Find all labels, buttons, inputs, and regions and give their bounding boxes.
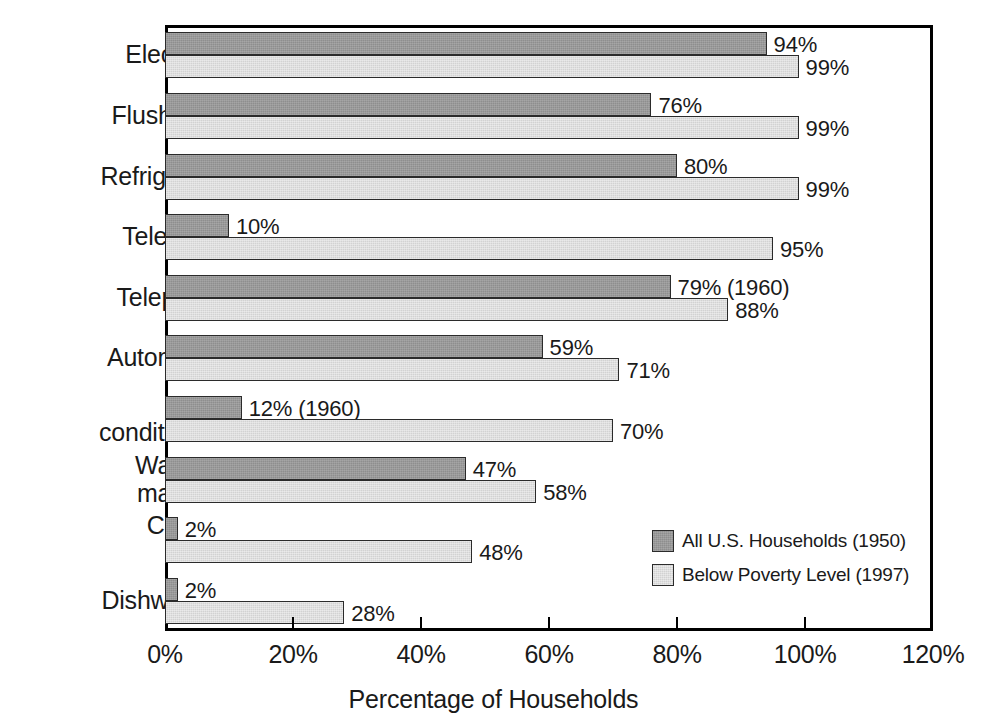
bar-1-0 (165, 55, 799, 78)
bar-value-label-1-1: 99% (806, 117, 849, 140)
bar-value-label-1-7: 58% (543, 481, 586, 504)
bar-value-label-0-4: 79% (1960) (678, 276, 790, 299)
legend-label-1: Below Poverty Level (1997) (682, 564, 909, 586)
bar-1-7 (165, 480, 536, 503)
bar-1-1 (165, 116, 799, 139)
bar-value-label-1-9: 28% (351, 602, 394, 625)
bar-0-7 (165, 457, 466, 480)
x-tick-mark-3 (548, 617, 550, 631)
bar-1-8 (165, 540, 472, 563)
x-axis-title: Percentage of Households (0, 685, 987, 714)
x-tick-label-5: 100% (774, 641, 837, 667)
bar-1-5 (165, 358, 619, 381)
x-tick-mark-2 (420, 617, 422, 631)
x-tick-label-0: 0% (147, 641, 183, 667)
bar-value-label-0-0: 94% (774, 33, 817, 56)
x-tick-label-3: 60% (524, 641, 573, 667)
bar-0-1 (165, 93, 651, 116)
bar-value-label-1-2: 99% (806, 178, 849, 201)
bar-1-4 (165, 298, 728, 321)
legend-label-0: All U.S. Households (1950) (682, 530, 906, 552)
bar-0-6 (165, 396, 242, 419)
bar-value-label-0-3: 10% (236, 215, 279, 238)
bar-0-8 (165, 517, 178, 540)
bar-0-3 (165, 214, 229, 237)
bar-value-label-0-8: 2% (185, 518, 216, 541)
bar-value-label-1-4: 88% (735, 299, 778, 322)
bar-1-3 (165, 237, 773, 260)
bar-0-2 (165, 154, 677, 177)
bar-value-label-0-6: 12% (1960) (249, 397, 361, 420)
x-tick-mark-1 (292, 617, 294, 631)
bar-value-label-0-9: 2% (185, 579, 216, 602)
bar-value-label-1-6: 70% (620, 420, 663, 443)
bar-value-label-1-3: 95% (780, 238, 823, 261)
chart-legend: All U.S. Households (1950) Below Poverty… (652, 526, 909, 594)
bar-value-label-1-0: 99% (806, 56, 849, 79)
bar-value-label-1-5: 71% (626, 359, 669, 382)
bar-1-2 (165, 177, 799, 200)
legend-item-0[interactable]: All U.S. Households (1950) (652, 526, 909, 556)
bar-0-4 (165, 275, 671, 298)
bar-value-label-0-2: 80% (684, 155, 727, 178)
x-tick-label-1: 20% (268, 641, 317, 667)
legend-swatch-icon-0 (652, 530, 674, 552)
legend-swatch-icon-1 (652, 564, 674, 586)
bar-value-label-0-5: 59% (550, 336, 593, 359)
bar-0-5 (165, 335, 543, 358)
legend-item-1[interactable]: Below Poverty Level (1997) (652, 560, 909, 590)
x-tick-label-4: 80% (652, 641, 701, 667)
bar-1-9 (165, 601, 344, 624)
bar-value-label-0-7: 47% (473, 458, 516, 481)
bar-chart: ElectricityFlush toiletRefrigeratorTelev… (0, 0, 987, 728)
bar-0-0 (165, 32, 767, 55)
x-tick-label-6: 120% (902, 641, 965, 667)
bar-0-9 (165, 578, 178, 601)
x-tick-mark-4 (676, 617, 678, 631)
bar-value-label-0-1: 76% (658, 94, 701, 117)
x-tick-mark-5 (804, 617, 806, 631)
bar-value-label-1-8: 48% (479, 541, 522, 564)
bar-1-6 (165, 419, 613, 442)
x-tick-label-2: 40% (396, 641, 445, 667)
